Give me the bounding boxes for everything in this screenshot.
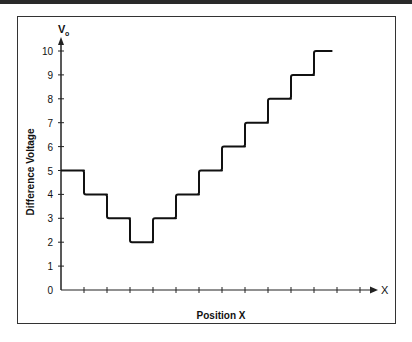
- y-axis-label: Difference Voltage: [25, 128, 36, 215]
- y-tick-label: 10: [42, 46, 54, 57]
- y-tick-label: 9: [47, 70, 53, 81]
- x-axis-symbol: X: [381, 284, 389, 296]
- y-tick-label: 2: [47, 237, 53, 248]
- x-axis-label: Position X: [197, 310, 246, 321]
- y-tick-label: 1: [47, 261, 53, 272]
- y-tick-label: 0: [47, 285, 53, 296]
- x-axis-arrow-icon: [370, 287, 378, 294]
- y-axis-symbol-subscript: o: [65, 30, 69, 37]
- y-tick-label: 7: [47, 118, 53, 129]
- step-chart: VoX012345678910: [0, 0, 412, 342]
- y-tick-label: 6: [47, 142, 53, 153]
- y-tick-label: 4: [47, 189, 53, 200]
- y-tick-label: 8: [47, 94, 53, 105]
- series-line-difference-voltage: [61, 51, 332, 242]
- y-tick-label: 5: [47, 166, 53, 177]
- y-tick-label: 3: [47, 213, 53, 224]
- y-axis-arrow-icon: [58, 37, 64, 45]
